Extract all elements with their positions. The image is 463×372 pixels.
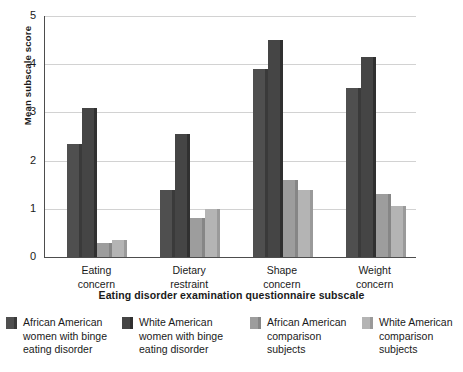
plot-area <box>44 16 416 258</box>
legend-item[interactable]: African American women with binge eating… <box>6 316 107 357</box>
bar <box>253 69 268 257</box>
bar-face <box>205 209 217 257</box>
bar-face <box>346 88 358 257</box>
legend-swatch-face <box>6 317 14 329</box>
legend-label: White American women with binge eating d… <box>139 316 223 357</box>
bar <box>160 190 175 257</box>
y-tick-label: 4 <box>10 57 36 69</box>
bar-face <box>67 144 79 257</box>
y-tick-label: 0 <box>10 250 36 262</box>
bar-face <box>175 134 187 257</box>
y-tick-label: 1 <box>10 202 36 214</box>
bar-face <box>268 40 280 257</box>
bar-side <box>94 108 97 257</box>
bar-side <box>217 209 220 257</box>
bar-face <box>190 218 202 257</box>
legend-swatch-side <box>14 317 17 329</box>
bar-group <box>253 16 313 257</box>
bar-face <box>160 190 172 257</box>
x-tick-label: Weightconcern <box>320 264 430 291</box>
legend-item[interactable]: White American women with binge eating d… <box>122 316 223 357</box>
legend-swatch-face <box>362 317 370 329</box>
bar-chart: Mean subscale score 012345 Eatingconcern… <box>0 0 463 372</box>
bar-side <box>403 206 406 257</box>
bar <box>190 218 205 257</box>
legend-label: White American comparison subjects <box>379 316 453 357</box>
bar <box>67 144 82 257</box>
legend-label: African American women with binge eating… <box>23 316 107 357</box>
bar <box>361 57 376 257</box>
bar-face <box>112 240 124 257</box>
bar-face <box>253 69 265 257</box>
legend-item[interactable]: African American comparison subjects <box>250 316 346 357</box>
bar <box>97 243 112 257</box>
bar-face <box>361 57 373 257</box>
bar <box>175 134 190 257</box>
bar-group <box>346 16 406 257</box>
bar <box>205 209 220 257</box>
y-tick-label: 3 <box>10 105 36 117</box>
bar-face <box>391 206 403 257</box>
bar <box>298 190 313 257</box>
y-axis-title: Mean subscale score <box>22 0 33 161</box>
legend-swatch-face <box>250 317 258 329</box>
bar-group <box>160 16 220 257</box>
x-tick-label-line: Weight <box>320 264 430 278</box>
x-axis-title: Eating disorder examination questionnair… <box>0 289 463 301</box>
bar-face <box>97 243 109 257</box>
bar-face <box>298 190 310 257</box>
bar-face <box>376 194 388 257</box>
bar-face <box>82 108 94 257</box>
legend-swatch-face <box>122 317 130 329</box>
bar-face <box>283 180 295 257</box>
bar <box>112 240 127 257</box>
legend-swatch-icon <box>250 317 261 329</box>
bar <box>391 206 406 257</box>
bar <box>283 180 298 257</box>
legend-swatch-icon <box>122 317 133 329</box>
y-tick-label: 2 <box>10 154 36 166</box>
legend-swatch-icon <box>362 317 373 329</box>
bar <box>376 194 391 257</box>
legend-swatch-side <box>130 317 133 329</box>
bar-group <box>67 16 127 257</box>
legend-swatch-icon <box>6 317 17 329</box>
y-tick-label: 5 <box>10 9 36 21</box>
bar <box>346 88 361 257</box>
bar <box>268 40 283 257</box>
legend-label: African American comparison subjects <box>267 316 346 357</box>
bar-side <box>310 190 313 257</box>
bar-side <box>124 240 127 257</box>
legend-item[interactable]: White American comparison subjects <box>362 316 453 357</box>
legend-swatch-side <box>258 317 261 329</box>
chart-legend: African American women with binge eating… <box>0 316 463 372</box>
legend-swatch-side <box>370 317 373 329</box>
bar <box>82 108 97 257</box>
